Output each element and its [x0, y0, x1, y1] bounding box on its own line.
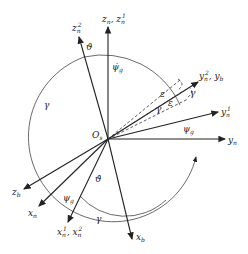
label-psi-dot: ψ̇g: [112, 62, 123, 74]
label-xn1-xn2: xn1, xn2: [57, 225, 82, 238]
top-arc: [84, 55, 180, 105]
coordinate-frame-diagram: zn, zn1 zn2 yn yn1 yn2, yb zb xn xn1, xn…: [0, 0, 248, 254]
cone-line-lower: [108, 99, 188, 139]
label-yn2-yb: yn2, yb: [198, 69, 224, 82]
label-xb: xb: [136, 232, 145, 243]
label-psi-bottom: ψg: [63, 193, 74, 205]
label-xn: xn: [28, 208, 37, 219]
label-yn: yn: [227, 135, 237, 146]
label-theta-dot: ϑ̇: [95, 174, 102, 184]
label-zn2: zn2: [71, 21, 82, 34]
psi-arc-bottom: [80, 196, 166, 216]
xn-axis: [39, 139, 108, 206]
label-zb: zb: [11, 187, 21, 198]
label-origin: Os: [92, 130, 102, 141]
label-psi-right: ψg: [183, 124, 194, 136]
label-gamma-bottom: γ: [96, 214, 102, 224]
label-gamma-small: γ: [156, 104, 162, 114]
label-theta: ϑ: [86, 42, 93, 52]
label-yn1: yn1: [220, 105, 231, 118]
xb-axis: [108, 139, 132, 239]
label-epsilon-1: ε: [160, 89, 165, 99]
label-gamma-cone: γ: [190, 88, 196, 98]
label-gamma-left: γ: [44, 100, 50, 110]
zn2-axis: [79, 37, 108, 139]
label-zn-zn1: zn, zn1: [101, 12, 126, 25]
label-epsilon-2: ε: [168, 98, 173, 108]
